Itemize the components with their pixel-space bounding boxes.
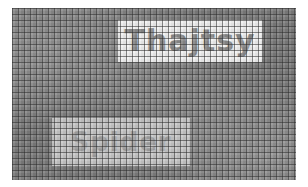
top-text-label: Thajtsy bbox=[124, 26, 255, 56]
image-canvas: Thajtsy Spider bbox=[0, 0, 308, 187]
bottom-text-box: Spider bbox=[52, 118, 190, 166]
bottom-text-label: Spider bbox=[70, 129, 171, 155]
pixel-mosaic: Thajtsy Spider bbox=[12, 8, 296, 180]
top-text-box: Thajtsy bbox=[118, 20, 262, 62]
